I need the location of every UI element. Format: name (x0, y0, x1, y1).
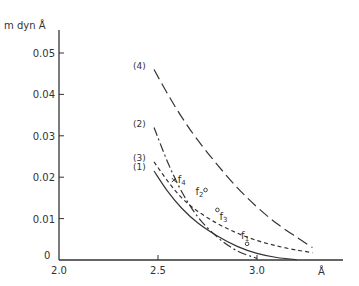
point-label: f3 (219, 211, 227, 224)
y-tick-label: 0.05 (33, 48, 55, 59)
y-tick-label: 0.04 (33, 89, 55, 100)
y-axis-label: m dyn Å (4, 19, 46, 31)
y-tick-label: 0 (44, 250, 50, 261)
point-label: f1 (241, 230, 249, 243)
x-axis: 2.02.53.0 Å (51, 255, 343, 277)
point-marker-circle (204, 188, 208, 192)
x-tick-label: 2.5 (150, 265, 166, 276)
curves: (1)(2)(3)(4) (133, 61, 312, 260)
y-tick-label: 0.03 (33, 131, 55, 142)
curve-label: (2) (133, 119, 146, 129)
curve-4 (154, 70, 312, 248)
curve-label: (3) (133, 153, 146, 163)
x-axis-label: Å (318, 265, 325, 277)
curve-label: (4) (133, 61, 146, 71)
chart: 00.010.020.030.040.05 m dyn Å 2.02.53.0 … (0, 0, 359, 286)
y-tick-label: 0.01 (33, 214, 55, 225)
x-tick-label: 3.0 (249, 265, 265, 276)
point-label: f4 (178, 174, 187, 187)
point-label: f2 (196, 186, 204, 199)
y-tick-label: 0.02 (33, 172, 55, 183)
x-tick-label: 2.0 (51, 265, 67, 276)
y-axis: 00.010.020.030.040.05 m dyn Å (4, 19, 64, 261)
curve-label: (1) (133, 162, 146, 172)
